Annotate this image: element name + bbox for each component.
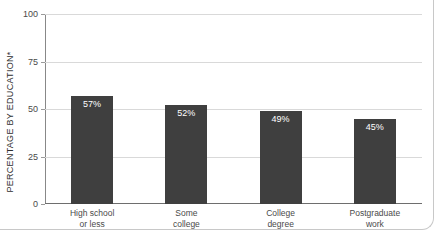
category-label-line: Postgraduate: [328, 208, 422, 219]
category-label-line: College: [234, 208, 328, 219]
category-label-line: Some: [139, 208, 233, 219]
bar[interactable]: 49%: [260, 111, 302, 204]
bar-group[interactable]: 52%: [165, 105, 207, 204]
category-label-line: High school: [45, 208, 139, 219]
y-axis-tick-mark: [41, 204, 45, 205]
category-label: High schoolor less: [45, 208, 139, 230]
y-axis-title: PERCENTAGE BY EDUCATION*: [2, 0, 18, 244]
bar[interactable]: 52%: [165, 105, 207, 204]
bar[interactable]: 57%: [71, 96, 113, 204]
bar-value-label: 52%: [165, 109, 207, 118]
bars-layer: 57%52%49%45%: [45, 14, 422, 204]
y-axis-tick-label: 75: [28, 58, 38, 67]
y-axis-tick-label: 0: [33, 200, 38, 209]
category-label: Somecollege: [139, 208, 233, 230]
bar-chart-figure: PERCENTAGE BY EDUCATION* 0255075100 57%5…: [0, 0, 443, 244]
bar[interactable]: 45%: [354, 119, 396, 205]
bar-group[interactable]: 57%: [71, 96, 113, 204]
bar-value-label: 49%: [260, 115, 302, 124]
y-axis-tick-label: 25: [28, 153, 38, 162]
category-label-line: college: [139, 219, 233, 230]
category-label: Collegedegree: [234, 208, 328, 230]
category-label-line: degree: [234, 219, 328, 230]
category-label: Postgraduatework: [328, 208, 422, 230]
category-label-line: work: [328, 219, 422, 230]
bar-group[interactable]: 45%: [354, 119, 396, 205]
bar-value-label: 45%: [354, 123, 396, 132]
y-axis-title-text: PERCENTAGE BY EDUCATION*: [5, 51, 15, 192]
bar-group[interactable]: 49%: [260, 111, 302, 204]
bar-value-label: 57%: [71, 100, 113, 109]
plot-area: 0255075100 57%52%49%45%: [45, 14, 422, 204]
y-axis-tick-label: 50: [28, 105, 38, 114]
x-axis-category-labels: High schoolor lessSomecollegeCollegedegr…: [45, 208, 422, 238]
y-axis-tick-label: 100: [23, 10, 38, 19]
category-label-line: or less: [45, 219, 139, 230]
